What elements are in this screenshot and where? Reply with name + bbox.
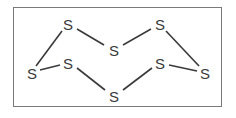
sulfur-atom-3: S: [155, 17, 165, 32]
sulfur-atom-2: S: [109, 43, 119, 58]
bond-s1-s2: [77, 29, 104, 45]
bond-s7-s6: [169, 65, 197, 71]
bond-s4-s1: [36, 31, 62, 66]
sulfur-atom-8: S: [109, 89, 119, 104]
sulfur-atom-6: S: [155, 56, 165, 71]
bond-s5-s4: [40, 65, 60, 70]
sulfur-atom-4: S: [27, 66, 37, 81]
sulfur-atom-7: S: [200, 66, 210, 81]
bond-s8-s5: [77, 68, 105, 90]
bond-s3-s7: [166, 31, 199, 66]
bond-s2-s3: [123, 29, 151, 45]
bond-s6-s8: [123, 68, 152, 90]
sulfur-atom-1: S: [63, 17, 73, 32]
sulfur-atom-5: S: [63, 56, 73, 71]
